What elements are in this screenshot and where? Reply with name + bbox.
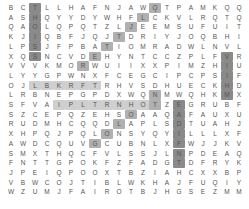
grid-letter[interactable]: T [41,149,53,159]
grid-letter[interactable]: L [53,3,65,13]
grid-letter[interactable]: R [209,158,221,168]
grid-letter[interactable]: Y [161,129,173,139]
grid-letter[interactable]: D [233,81,245,91]
grid-letter[interactable]: F [53,42,65,52]
grid-letter[interactable]: I [125,61,137,71]
grid-letter[interactable]: B [29,90,41,100]
grid-letter[interactable]: J [173,32,185,42]
grid-letter[interactable]: O [185,32,197,42]
grid-letter[interactable]: L [41,22,53,32]
grid-letter[interactable]: V [17,61,29,71]
grid-letter[interactable]: E [209,149,221,159]
grid-letter[interactable]: M [161,90,173,100]
grid-letter[interactable]: B [137,187,149,197]
grid-letter[interactable]: B [125,168,137,178]
grid-letter[interactable]: P [173,3,185,13]
grid-letter[interactable]: I [113,42,125,52]
grid-letter[interactable]: J [77,32,89,42]
grid-letter[interactable]: T [185,119,197,129]
grid-letter[interactable]: P [65,100,77,110]
grid-letter[interactable]: S [161,119,173,129]
grid-letter[interactable]: H [221,32,233,42]
grid-letter[interactable]: A [5,139,17,149]
grid-letter[interactable]: O [125,110,137,120]
grid-letter[interactable]: F [5,158,17,168]
grid-letter[interactable]: K [209,90,221,100]
grid-letter[interactable]: J [197,139,209,149]
grid-letter[interactable]: C [41,178,53,188]
grid-letter[interactable]: V [221,52,233,62]
grid-letter[interactable]: D [197,149,209,159]
grid-letter[interactable]: A [77,187,89,197]
grid-letter[interactable]: K [233,158,245,168]
grid-letter[interactable]: U [209,22,221,32]
grid-letter[interactable]: Q [185,90,197,100]
grid-letter[interactable]: I [29,32,41,42]
grid-letter[interactable]: O [89,168,101,178]
grid-letter[interactable]: H [101,52,113,62]
grid-letter[interactable]: V [125,81,137,91]
grid-letter[interactable]: C [65,119,77,129]
grid-letter[interactable]: J [113,3,125,13]
grid-letter[interactable]: J [101,32,113,42]
grid-letter[interactable]: Q [77,22,89,32]
grid-letter[interactable]: O [101,129,113,139]
grid-letter[interactable]: A [221,149,233,159]
grid-letter[interactable]: F [197,22,209,32]
grid-letter[interactable]: F [185,110,197,120]
grid-letter[interactable]: B [17,178,29,188]
grid-letter[interactable]: H [125,100,137,110]
grid-letter[interactable]: A [149,110,161,120]
grid-letter[interactable]: S [29,42,41,52]
grid-letter[interactable]: Q [53,168,65,178]
grid-letter[interactable]: C [149,52,161,62]
grid-letter[interactable]: H [161,187,173,197]
grid-letter[interactable]: Y [65,13,77,23]
grid-letter[interactable]: Y [221,158,233,168]
grid-letter[interactable]: Z [197,61,209,71]
grid-letter[interactable]: T [137,52,149,62]
grid-letter[interactable]: E [89,52,101,62]
grid-letter[interactable]: J [149,187,161,197]
grid-letter[interactable]: R [65,81,77,91]
grid-letter[interactable]: A [77,3,89,13]
grid-letter[interactable]: M [17,149,29,159]
grid-letter[interactable]: D [29,139,41,149]
grid-letter[interactable]: A [161,178,173,188]
grid-letter[interactable]: Q [41,129,53,139]
grid-letter[interactable]: K [89,158,101,168]
grid-letter[interactable]: Q [233,13,245,23]
grid-letter[interactable]: J [173,178,185,188]
grid-letter[interactable]: K [53,81,65,91]
grid-letter[interactable]: W [137,3,149,13]
grid-letter[interactable]: E [185,81,197,91]
grid-letter[interactable]: X [221,110,233,120]
grid-letter[interactable]: M [137,42,149,52]
grid-letter[interactable]: P [53,110,65,120]
grid-letter[interactable]: O [65,61,77,71]
grid-letter[interactable]: T [101,42,113,52]
grid-letter[interactable]: A [209,119,221,129]
grid-letter[interactable]: J [53,187,65,197]
grid-letter[interactable]: W [29,178,41,188]
grid-letter[interactable]: N [125,52,137,62]
grid-letter[interactable]: E [53,90,65,100]
grid-letter[interactable]: T [89,81,101,91]
grid-letter[interactable]: Z [17,110,29,120]
grid-letter[interactable]: P [17,42,29,52]
grid-letter[interactable]: I [221,22,233,32]
grid-letter[interactable]: U [101,61,113,71]
grid-letter[interactable]: N [149,90,161,100]
grid-letter[interactable]: H [209,61,221,71]
grid-letter[interactable]: B [5,3,17,13]
grid-letter[interactable]: I [173,129,185,139]
grid-letter[interactable]: F [89,149,101,159]
grid-letter[interactable]: K [41,61,53,71]
grid-letter[interactable]: W [65,71,77,81]
grid-letter[interactable]: F [233,71,245,81]
grid-letter[interactable]: P [65,129,77,139]
grid-letter[interactable]: Y [137,129,149,139]
grid-letter[interactable]: C [161,52,173,62]
grid-letter[interactable]: L [197,129,209,139]
grid-letter[interactable]: N [209,42,221,52]
